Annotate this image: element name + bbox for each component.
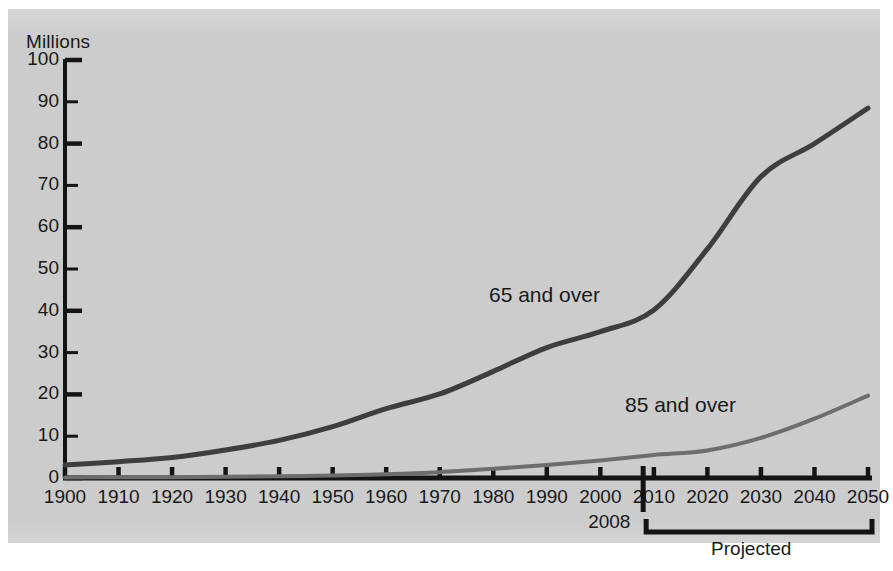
axis-ticks [65, 60, 868, 478]
projected-bracket-shape [646, 519, 872, 532]
series-line-65-and-over [65, 108, 868, 465]
chart-panel: Millions 0102030405060708090100 19001910… [8, 9, 880, 543]
plot-area [8, 9, 880, 543]
data-series [65, 108, 868, 478]
series-line-85-and-over [65, 396, 868, 478]
axis-lines [63, 59, 872, 478]
